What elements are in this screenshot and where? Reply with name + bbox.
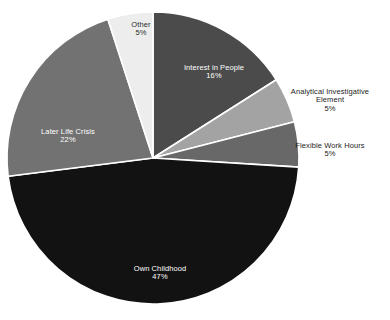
slice-label-analytical-investigative-element: Analytical Investigative Element 5% xyxy=(278,88,382,113)
slice-label-percent: 16% xyxy=(166,72,262,80)
pie-slice-group xyxy=(7,12,299,304)
slice-label-own-childhood: Own Childhood 47% xyxy=(100,265,220,282)
slice-label-percent: 47% xyxy=(100,273,220,281)
slice-label-later-life-crisis: Later Life Crisis 22% xyxy=(16,128,120,145)
slice-label-interest-in-people: Interest in People 16% xyxy=(166,64,262,81)
slice-label-percent: 22% xyxy=(16,136,120,144)
slice-label-other: Other 5% xyxy=(110,21,172,38)
slice-label-flexible-work-hours: Flexible Work Hours 5% xyxy=(278,142,382,159)
pie-slice xyxy=(8,158,299,304)
pie-chart: Interest in People 16% Analytical Invest… xyxy=(0,0,390,320)
slice-label-percent: 5% xyxy=(110,29,172,37)
slice-label-percent: 5% xyxy=(278,105,382,113)
slice-label-percent: 5% xyxy=(278,150,382,158)
